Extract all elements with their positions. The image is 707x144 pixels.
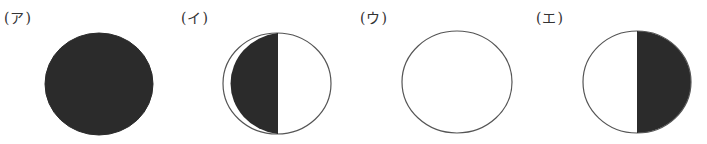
option-label-e: (エ) <box>536 10 564 26</box>
moon-diagram-canvas <box>0 0 707 144</box>
moon-phase-i-left-dark <box>223 33 331 134</box>
moon-phase-u-full-light <box>402 31 512 133</box>
moon-phase-e-right-dark <box>583 31 691 133</box>
option-label-i: (イ) <box>181 10 209 26</box>
option-label-u: (ウ) <box>360 10 388 26</box>
moon-phase-a-full-dark <box>45 33 153 135</box>
